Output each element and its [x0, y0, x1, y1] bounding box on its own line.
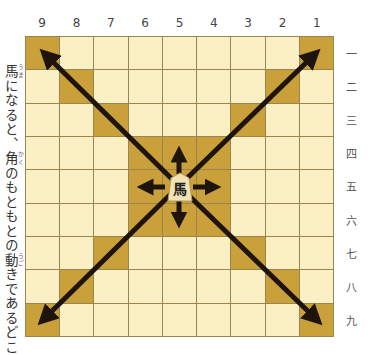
- board-cell: [94, 237, 127, 269]
- caption-text: になると、: [3, 79, 19, 152]
- board-cell: [163, 270, 196, 302]
- board-cell: [26, 37, 59, 69]
- row-label: 三: [334, 103, 368, 136]
- board-cell: [60, 104, 93, 136]
- column-label: 3: [231, 14, 265, 32]
- board-cell: [94, 137, 127, 169]
- board-cell: [26, 270, 59, 302]
- row-label: 四: [334, 136, 368, 169]
- board-cell: [197, 237, 230, 269]
- row-labels: 一 二 三 四 五 六 七 八 九: [334, 36, 368, 337]
- board-cell: [163, 70, 196, 102]
- board-cell: [60, 137, 93, 169]
- board-cell: [26, 237, 59, 269]
- board-cell: [300, 37, 333, 69]
- column-label: 2: [265, 14, 299, 32]
- board-cell: [266, 237, 299, 269]
- board-cell: [300, 270, 333, 302]
- board-cell: [94, 37, 127, 69]
- board-cell: [197, 70, 230, 102]
- row-label: 五: [334, 170, 368, 203]
- board-cell: [163, 304, 196, 336]
- board-cell: [231, 104, 264, 136]
- board-cell: [60, 37, 93, 69]
- board-cell: [197, 304, 230, 336]
- board-cell: [231, 304, 264, 336]
- column-label: 1: [300, 14, 334, 32]
- board-cell: [26, 170, 59, 202]
- board-cell: [231, 170, 264, 202]
- row-label: 二: [334, 69, 368, 102]
- board-cell: [129, 270, 162, 302]
- board-cell: [266, 104, 299, 136]
- board-cell: [231, 37, 264, 69]
- column-label: 7: [94, 14, 128, 32]
- board-cell: [300, 204, 333, 236]
- column-label: 4: [197, 14, 231, 32]
- board-cell: [94, 170, 127, 202]
- board-cell: [231, 137, 264, 169]
- row-label: 八: [334, 270, 368, 303]
- column-label: 8: [59, 14, 93, 32]
- board-cell: [197, 37, 230, 69]
- board-cell: [26, 70, 59, 102]
- row-label: 一: [334, 36, 368, 69]
- board-cell: [300, 304, 333, 336]
- board-cell: [60, 204, 93, 236]
- board-cell: [266, 137, 299, 169]
- board-cell: [163, 237, 196, 269]
- board-cell: [197, 270, 230, 302]
- board-cell: [266, 170, 299, 202]
- board-cell: [60, 304, 93, 336]
- piece-label: 馬: [167, 178, 193, 198]
- board-cell: [26, 304, 59, 336]
- row-label: 七: [334, 237, 368, 270]
- column-label: 6: [128, 14, 162, 32]
- board-cell: [266, 70, 299, 102]
- board-cell: [197, 137, 230, 169]
- board-cell: [94, 270, 127, 302]
- board-cell: [129, 104, 162, 136]
- board-cell: [231, 204, 264, 236]
- board-cell: [300, 237, 333, 269]
- board-cell: [26, 204, 59, 236]
- board-cell: [129, 237, 162, 269]
- caption-ruby: うご: [18, 253, 25, 268]
- board-cell: [60, 270, 93, 302]
- board-cell: [26, 104, 59, 136]
- board-cell: [129, 137, 162, 169]
- shogi-piece-horse: 馬: [167, 172, 193, 202]
- board-cell: [300, 70, 333, 102]
- board-cell: [129, 304, 162, 336]
- board-cell: [129, 170, 162, 202]
- board-cell: [163, 104, 196, 136]
- board-cell: [163, 137, 196, 169]
- row-label: 九: [334, 304, 368, 337]
- board-cell: [60, 170, 93, 202]
- board-cell: [266, 270, 299, 302]
- board-cell: [231, 237, 264, 269]
- board-cell: [266, 37, 299, 69]
- caption-ruby: かく: [18, 151, 25, 166]
- caption-ruby: うま: [18, 64, 25, 79]
- column-label: 9: [25, 14, 59, 32]
- board-cell: [300, 137, 333, 169]
- board-cell: [129, 204, 162, 236]
- board-cell: [197, 204, 230, 236]
- board-cell: [197, 104, 230, 136]
- board-cell: [129, 70, 162, 102]
- board-cell: [94, 104, 127, 136]
- board-cell: [266, 304, 299, 336]
- column-label: 5: [162, 14, 196, 32]
- column-labels: 9 8 7 6 5 4 3 2 1: [25, 14, 334, 32]
- board-cell: [231, 70, 264, 102]
- board-cell: [94, 304, 127, 336]
- board-cell: [300, 104, 333, 136]
- board-cell: [163, 37, 196, 69]
- board-cell: [94, 70, 127, 102]
- board-cell: [197, 170, 230, 202]
- board-cell: [231, 270, 264, 302]
- board-cell: [60, 70, 93, 102]
- caption-vertical: 馬うまになると、角かくのもともとの動うごきであるどこまで: [2, 64, 24, 355]
- board-cell: [163, 204, 196, 236]
